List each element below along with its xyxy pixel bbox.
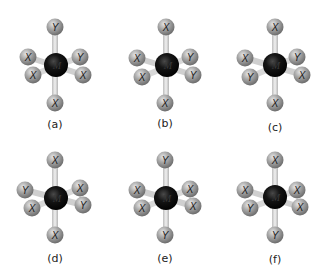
ligand-atom-right-lower: Y [75,197,92,214]
svg-text:M: M [271,192,281,203]
svg-text:X: X [241,53,249,64]
central-atom: M [263,53,287,77]
panel-caption: (b) [110,117,220,130]
ligand-atom-top: X [47,152,64,169]
ligand-atom-left-upper: X [129,50,146,67]
panel-caption: (d) [0,252,110,265]
svg-text:M: M [271,60,281,71]
ligand-atom-right-upper: Y [182,49,199,66]
svg-text:X: X [29,70,37,81]
ligand-atom-top: Y [47,19,64,36]
molecule-model: X Y X M Y X X [220,0,330,137]
ligand-atom-bottom: Y [267,227,284,244]
ligand-atom-left-lower: X [134,200,151,217]
svg-text:X: X [133,185,141,196]
ligand-atom-right-lower: X [75,67,92,84]
central-atom: M [154,186,178,210]
svg-text:M: M [52,60,62,71]
ligand-atom-right-lower: X [294,67,311,84]
ligand-atom-right-lower: X [292,199,309,216]
svg-text:X: X [271,22,279,33]
central-atom: M [263,185,287,209]
svg-text:X: X [296,202,304,213]
svg-text:X: X [161,98,169,109]
svg-text:X: X [298,70,306,81]
svg-text:X: X [133,53,141,64]
ligand-atom-left-upper: X [20,49,37,66]
ligand-atom-left-lower: Y [242,200,259,217]
ligand-atom-bottom: X [47,227,64,244]
ligand-atom-bottom: X [157,95,174,112]
ligand-atom-right-upper: Y [72,49,89,66]
ligand-atom-top: X [267,19,284,36]
ligand-atom-right-upper: X [182,181,199,198]
svg-text:X: X [51,98,59,109]
ligand-atom-bottom: X [267,95,284,112]
svg-text:M: M [163,60,173,71]
molecule-panel-f: X X X M Y X Y (f) [220,137,330,274]
molecule-model: X Y Y M X X X [0,0,110,137]
central-atom: M [44,53,68,77]
svg-text:M: M [162,193,172,204]
ligand-atom-left-lower: Y [242,69,259,86]
molecule-panel-d: Y X X M X Y X (d) [0,137,110,274]
molecule-panel-c: X Y X M Y X X (c) [220,0,330,137]
ligand-atom-left-upper: X [237,182,254,199]
ligand-atom-left-lower: X [24,200,41,217]
ligand-atom-left-upper: Y [17,182,34,199]
panel-caption: (c) [220,121,330,134]
ligand-atom-right-upper: X [289,182,306,199]
svg-text:X: X [186,184,194,195]
ligand-atom-right-lower: Y [185,67,202,84]
svg-text:X: X [189,201,197,212]
ligand-atom-left-lower: X [134,69,151,86]
ligand-atom-bottom: Y [157,227,174,244]
svg-text:X: X [271,98,279,109]
svg-text:X: X [51,230,59,241]
svg-text:X: X [271,155,279,166]
ligand-atom-bottom: X [47,95,64,112]
svg-text:X: X [138,203,146,214]
ligand-atom-top: X [267,152,284,169]
svg-text:X: X [138,72,146,83]
ligand-atom-left-upper: X [129,182,146,199]
ligand-atom-top: Y [157,152,174,169]
ligand-atom-left-upper: X [237,50,254,67]
svg-text:X: X [76,183,84,194]
ligand-atom-left-lower: X [25,67,42,84]
panel-caption: (f) [220,253,330,266]
ligand-atom-right-upper: X [72,180,89,197]
molecule-panel-e: X X Y M X X Y (e) [110,137,220,274]
svg-text:X: X [79,70,87,81]
svg-text:X: X [162,22,170,33]
panel-caption: (a) [0,118,110,131]
central-atom: M [44,186,68,210]
ligand-atom-top: X [158,19,175,36]
panel-caption: (e) [110,252,220,265]
central-atom: M [155,53,179,77]
svg-text:X: X [241,185,249,196]
svg-text:M: M [52,193,62,204]
ligand-atom-right-upper: Y [289,49,306,66]
svg-text:X: X [293,185,301,196]
svg-text:X: X [51,155,59,166]
molecule-panel-b: X Y X M X Y X (b) [110,0,220,137]
svg-text:X: X [28,203,36,214]
svg-text:X: X [24,52,32,63]
molecule-panel-a: X Y Y M X X X (a) [0,0,110,137]
ligand-atom-right-lower: X [185,198,202,215]
